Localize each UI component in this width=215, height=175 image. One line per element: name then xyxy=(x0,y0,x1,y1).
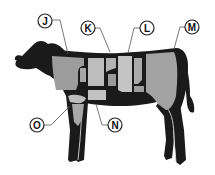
leader-line-m xyxy=(174,27,185,49)
label-k: K xyxy=(84,23,92,34)
callout-n: N xyxy=(108,118,122,132)
cut-region-k1 xyxy=(88,58,104,86)
cut-region-k2 xyxy=(80,68,86,82)
label-o: O xyxy=(33,120,41,131)
leader-line-o xyxy=(44,106,70,125)
leader-line-k xyxy=(95,28,110,52)
cut-region-l2 xyxy=(134,58,142,84)
label-n: N xyxy=(111,120,118,131)
cut-region-l xyxy=(118,56,132,92)
leader-line-l xyxy=(128,28,140,53)
callout-o: O xyxy=(30,118,44,132)
leg-highlights xyxy=(78,108,176,162)
cut-region-k4 xyxy=(108,74,116,86)
calf-diagram-svg: J K L M N O xyxy=(0,0,215,175)
callout-m: M xyxy=(185,20,199,34)
calf-cuts-diagram: J K L M N O xyxy=(0,0,215,175)
cut-region-n xyxy=(88,90,106,100)
label-l: L xyxy=(144,23,150,34)
callout-j: J xyxy=(38,14,52,28)
label-j: J xyxy=(42,16,48,27)
leader-line-n xyxy=(96,104,108,125)
label-m: M xyxy=(188,22,196,33)
callout-l: L xyxy=(140,21,154,35)
cut-region-l3 xyxy=(134,86,144,92)
callout-k: K xyxy=(81,21,95,35)
